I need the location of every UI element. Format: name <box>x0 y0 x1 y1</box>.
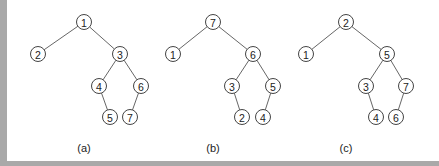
tree-node: 6 <box>246 47 261 62</box>
tree-node: 1 <box>77 15 92 30</box>
tree-edge <box>44 26 78 49</box>
node-label: 5 <box>384 49 390 61</box>
node-label: 5 <box>270 81 276 93</box>
tree-edge <box>265 93 270 110</box>
tree-caption: (b) <box>206 142 219 154</box>
tree-node: 3 <box>225 79 240 94</box>
node-label: 1 <box>170 49 176 61</box>
tree-edge <box>103 60 116 79</box>
tree-node: 6 <box>134 79 149 94</box>
node-label: 5 <box>107 112 113 124</box>
tree-diagrams: 1234657(a)7163524(b)2153746(c) <box>0 0 439 166</box>
tree-node: 3 <box>359 79 374 94</box>
tree-node: 6 <box>389 110 404 125</box>
tree-node: 7 <box>123 110 138 125</box>
node-label: 7 <box>210 17 216 29</box>
node-label: 4 <box>373 112 379 124</box>
tree-node: 5 <box>380 47 395 62</box>
tree-edge <box>391 60 402 79</box>
tree-edge <box>368 93 373 110</box>
tree-edge <box>257 60 269 79</box>
tree-caption: (a) <box>77 142 90 154</box>
tree-caption: (c) <box>340 142 353 154</box>
node-label: 1 <box>81 17 87 29</box>
node-label: 3 <box>117 49 123 61</box>
tree-node: 4 <box>92 79 107 94</box>
tree-c: 2153746(c) <box>299 15 414 155</box>
tree-b: 7163524(b) <box>166 15 281 155</box>
tree-edge <box>234 93 239 110</box>
node-label: 3 <box>363 81 369 93</box>
tree-node: 4 <box>369 110 384 125</box>
tree-node: 1 <box>299 47 314 62</box>
tree-edge <box>236 60 249 79</box>
node-label: 1 <box>303 49 309 61</box>
tree-node: 2 <box>339 15 354 30</box>
tree-edge <box>124 60 137 79</box>
node-label: 2 <box>239 112 245 124</box>
tree-node: 5 <box>266 79 281 94</box>
node-label: 2 <box>35 49 41 61</box>
tree-edge <box>398 93 403 110</box>
tree-edge <box>370 60 383 79</box>
tree-edge <box>219 27 247 50</box>
tree-node: 4 <box>256 110 271 125</box>
tree-edge <box>90 27 115 49</box>
node-label: 3 <box>229 81 235 93</box>
node-label: 6 <box>393 112 399 124</box>
node-label: 6 <box>138 81 144 93</box>
node-label: 6 <box>250 49 256 61</box>
tree-edge <box>133 93 139 110</box>
node-label: 7 <box>127 112 133 124</box>
tree-edge <box>102 93 108 110</box>
node-label: 2 <box>343 17 349 29</box>
node-label: 4 <box>96 81 102 93</box>
tree-node: 2 <box>235 110 250 125</box>
node-label: 7 <box>403 81 409 93</box>
node-label: 4 <box>260 112 266 124</box>
tree-a: 1234657(a) <box>31 15 149 155</box>
tree-node: 5 <box>103 110 118 125</box>
figure-frame: 1234657(a)7163524(b)2153746(c) <box>0 0 439 166</box>
tree-node: 1 <box>166 47 181 62</box>
tree-edge <box>312 27 340 50</box>
tree-node: 7 <box>206 15 221 30</box>
tree-edge <box>352 27 381 50</box>
tree-node: 2 <box>31 47 46 62</box>
tree-node: 3 <box>113 47 128 62</box>
tree-edge <box>179 27 207 50</box>
tree-node: 7 <box>399 79 414 94</box>
